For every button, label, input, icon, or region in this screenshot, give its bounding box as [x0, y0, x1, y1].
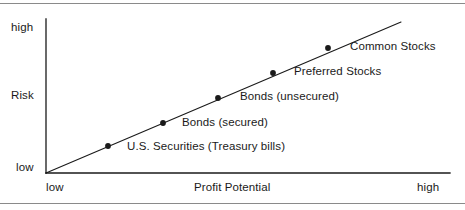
data-point-marker — [105, 143, 111, 149]
data-point-marker — [270, 70, 276, 76]
risk-vs-profit-potential-diagram: high Risk low low Profit Potential high … — [0, 0, 465, 210]
point-label-common-stocks: Common Stocks — [350, 41, 436, 53]
point-label-preferred-stocks: Preferred Stocks — [294, 66, 381, 78]
data-point-marker — [325, 45, 331, 51]
y-axis-title: Risk — [11, 90, 34, 102]
plot-canvas — [0, 0, 465, 210]
x-axis-high-label: high — [417, 182, 439, 194]
x-axis-title: Profit Potential — [194, 182, 270, 194]
point-label-us-securities: U.S. Securities (Treasury bills) — [127, 141, 285, 153]
x-axis-low-label: low — [46, 182, 64, 194]
data-point-marker — [160, 120, 166, 126]
y-axis-high-label: high — [11, 22, 33, 34]
point-label-bonds-unsecured: Bonds (unsecured) — [240, 91, 339, 103]
point-label-bonds-secured: Bonds (secured) — [182, 117, 268, 129]
data-point-marker — [215, 95, 221, 101]
y-axis-low-label: low — [16, 162, 34, 174]
